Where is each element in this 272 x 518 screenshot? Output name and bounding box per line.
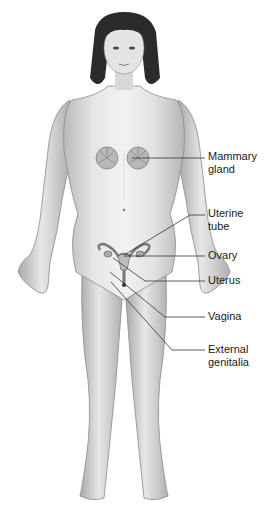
head: [104, 18, 146, 90]
label-external-genitalia: External genitalia: [208, 343, 249, 369]
label-mammary-gland: Mammary gland: [208, 150, 257, 176]
label-uterine-tube: Uterine tube: [208, 207, 243, 233]
legs: [80, 270, 168, 500]
right-arm: [178, 100, 230, 293]
label-uterus: Uterus: [208, 274, 240, 287]
label-ovary: Ovary: [208, 249, 237, 262]
label-vagina: Vagina: [208, 310, 241, 323]
left-arm: [18, 100, 70, 293]
